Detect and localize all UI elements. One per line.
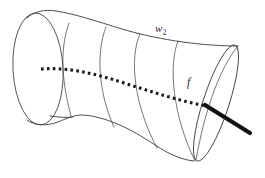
left-rim-cusp [50,116,73,117]
bottom-silhouette [27,115,194,161]
figure-container: w2 f [0,0,265,178]
left-end-ellipse-icon [10,12,66,126]
cross-section-rib-4 [173,41,195,161]
surface-label-w: w2 [155,22,167,37]
curve-label-f: f [187,76,192,89]
surface-label-base: w [155,22,163,34]
hyperboloid-figure: w2 f [0,0,265,178]
surface-label-subscript: 2 [163,28,167,37]
geodesic-dotted-curve [41,69,206,106]
right-end-ellipse-icon [185,41,247,165]
